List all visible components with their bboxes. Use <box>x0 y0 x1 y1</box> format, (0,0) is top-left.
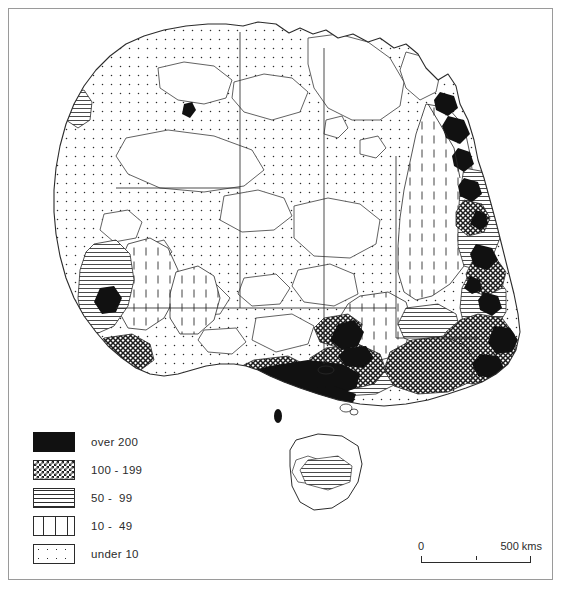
density-legend: over 200 100 - 199 50 - 99 10 - 49 under… <box>33 428 223 568</box>
legend-swatch-10-49 <box>33 516 75 536</box>
legend-item[interactable]: under 10 <box>33 540 223 568</box>
legend-label-under-10: under 10 <box>91 548 139 560</box>
figure-caption <box>12 584 372 594</box>
figure-container: over 200 100 - 199 50 - 99 10 - 49 under… <box>0 0 565 594</box>
tasmania-island <box>290 434 362 510</box>
legend-item[interactable]: over 200 <box>33 428 223 456</box>
legend-label-100-199: 100 - 199 <box>91 464 142 476</box>
scale-bar-midpoint-tick <box>476 556 477 560</box>
legend-item[interactable]: 10 - 49 <box>33 512 223 540</box>
scale-label-zero: 0 <box>418 540 424 552</box>
legend-swatch-under-10 <box>33 544 75 564</box>
legend-item[interactable]: 50 - 99 <box>33 484 223 512</box>
legend-swatch-100-199 <box>33 460 75 480</box>
legend-swatch-over-200 <box>33 432 75 452</box>
scale-label-max: 500 kms <box>500 540 542 552</box>
legend-label-10-49: 10 - 49 <box>91 520 132 532</box>
legend-label-50-99: 50 - 99 <box>91 492 132 504</box>
legend-swatch-50-99 <box>33 488 75 508</box>
legend-label-over-200: over 200 <box>91 436 138 448</box>
legend-item[interactable]: 100 - 199 <box>33 456 223 484</box>
distance-scale: 0 500 kms <box>418 540 538 570</box>
